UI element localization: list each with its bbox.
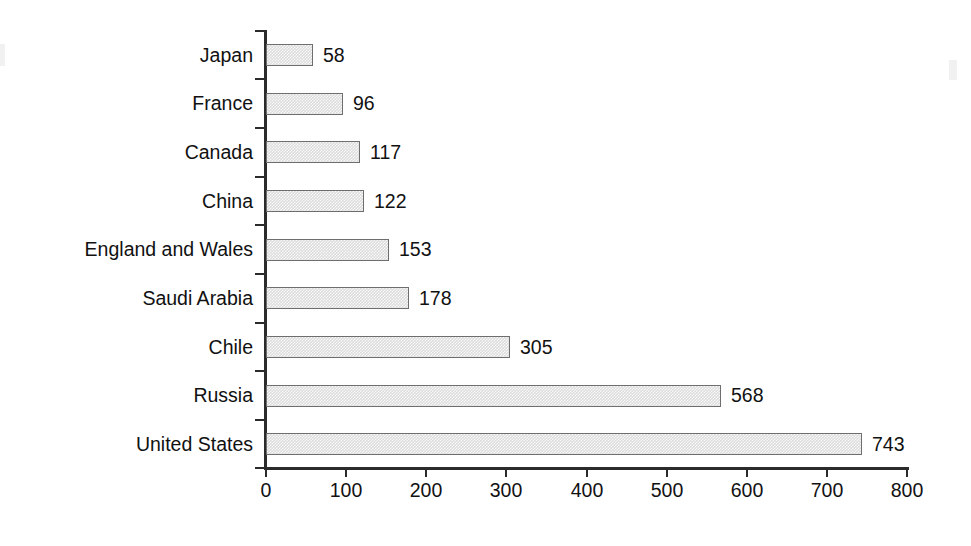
bar-value-label: 96 <box>353 94 375 114</box>
value-axis-tick <box>906 468 908 477</box>
value-axis-tick <box>826 468 828 477</box>
category-label: Chile <box>209 338 253 358</box>
bar <box>266 141 360 163</box>
x-axis-tick-label: 200 <box>410 481 443 501</box>
x-axis-tick-label: 300 <box>490 481 523 501</box>
category-label: China <box>202 192 253 212</box>
category-axis-tick <box>255 370 264 372</box>
bar-value-label: 568 <box>731 386 764 406</box>
bar <box>266 239 389 261</box>
value-axis-tick <box>425 468 427 477</box>
bar <box>266 287 409 309</box>
bar <box>266 385 721 407</box>
bar <box>266 93 343 115</box>
value-axis-tick <box>345 468 347 477</box>
bar <box>266 336 510 358</box>
category-axis-tick <box>255 127 264 129</box>
x-axis-tick-label: 0 <box>261 481 272 501</box>
x-axis-tick-label: 500 <box>651 481 684 501</box>
category-axis-tick <box>255 224 264 226</box>
bar-value-label: 122 <box>374 192 407 212</box>
bar-chart: Japan 58 France 96 Canada 117 China 122 … <box>0 0 971 546</box>
bar-value-label: 117 <box>370 143 401 163</box>
bar-value-label: 743 <box>872 435 905 455</box>
category-label: Canada <box>185 143 253 163</box>
x-axis-tick-label: 600 <box>731 481 764 501</box>
bar <box>266 433 862 455</box>
x-axis-tick-label: 100 <box>330 481 363 501</box>
category-axis-tick <box>255 30 264 32</box>
bar-value-label: 178 <box>419 289 452 309</box>
bar-value-label: 305 <box>520 338 553 358</box>
value-axis-tick <box>265 468 267 477</box>
x-axis-tick-label: 700 <box>811 481 844 501</box>
category-label: France <box>192 94 253 114</box>
x-axis-tick-label: 400 <box>571 481 604 501</box>
category-axis-tick <box>255 78 264 80</box>
x-axis-tick-label: 800 <box>891 481 924 501</box>
value-axis-tick <box>666 468 668 477</box>
bar <box>266 190 364 212</box>
bar <box>266 44 313 66</box>
category-label: England and Wales <box>85 240 253 260</box>
category-label: Saudi Arabia <box>142 289 253 309</box>
category-axis-tick <box>255 273 264 275</box>
value-axis-tick <box>505 468 507 477</box>
category-label: United States <box>136 435 253 455</box>
category-axis-tick <box>255 322 264 324</box>
category-axis-tick <box>255 419 264 421</box>
value-axis-tick <box>586 468 588 477</box>
bar-value-label: 153 <box>399 240 432 260</box>
category-label: Russia <box>193 386 253 406</box>
value-axis-tick <box>746 468 748 477</box>
category-axis-tick <box>255 176 264 178</box>
category-label: Japan <box>200 46 253 66</box>
bar-value-label: 58 <box>323 46 345 66</box>
plot-area: Japan 58 France 96 Canada 117 China 122 … <box>0 0 971 546</box>
category-axis-tick <box>255 467 264 469</box>
